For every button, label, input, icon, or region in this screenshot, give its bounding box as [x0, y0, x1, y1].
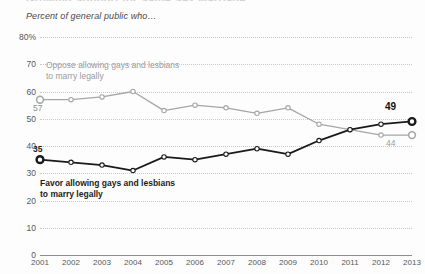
data-point — [317, 122, 321, 126]
data-point — [286, 106, 290, 110]
x-tick-2003: 2003 — [93, 258, 111, 267]
x-tick-2007: 2007 — [217, 258, 235, 267]
value-label-favor-end: 49 — [385, 101, 396, 112]
annotation-oppose-line1: Oppose allowing gays and lesbians — [46, 60, 179, 70]
x-tick-2009: 2009 — [279, 258, 297, 267]
data-point — [131, 168, 135, 172]
series-line — [40, 121, 412, 170]
y-tick-50: 50 — [27, 114, 36, 124]
data-point — [379, 122, 383, 126]
annotation-favor-line2: to marry legally — [40, 189, 103, 199]
data-point — [100, 95, 104, 99]
chart-canvas: Growing Support for Same-Sex Marriage Pe… — [0, 0, 425, 274]
x-tick-2011: 2011 — [341, 258, 358, 267]
data-point — [37, 156, 44, 163]
y-tick-80: 80% — [19, 32, 36, 42]
x-tick-2006: 2006 — [186, 258, 204, 267]
y-axis-labels: 01020304050607080% — [0, 37, 36, 255]
x-tick-2012: 2012 — [372, 258, 390, 267]
data-point — [409, 132, 416, 139]
data-point — [286, 152, 290, 156]
value-label-oppose-end: 44 — [386, 138, 395, 148]
data-point — [69, 97, 73, 101]
data-point — [131, 89, 135, 93]
y-tick-70: 70 — [27, 59, 36, 69]
x-tick-2004: 2004 — [124, 258, 142, 267]
x-tick-2013: 2013 — [403, 258, 421, 267]
x-tick-2002: 2002 — [62, 258, 80, 267]
series-oppose — [37, 89, 416, 138]
data-point — [162, 108, 166, 112]
x-tick-2008: 2008 — [248, 258, 266, 267]
y-tick-30: 30 — [27, 168, 36, 178]
x-tick-2010: 2010 — [310, 258, 328, 267]
annotation-oppose-line2: to marry legally — [46, 71, 104, 81]
y-tick-60: 60 — [27, 87, 36, 97]
data-point — [379, 133, 383, 137]
data-point — [255, 111, 259, 115]
value-label-favor-start: 35 — [33, 144, 42, 154]
annotation-oppose: Oppose allowing gays and lesbians to mar… — [46, 60, 179, 82]
data-point — [193, 157, 197, 161]
x-tick-2001: 2001 — [31, 258, 49, 267]
chart-title-clipped: Growing Support for Same-Sex Marriage — [26, 0, 246, 1]
annotation-favor: Favor allowing gays and lesbians to marr… — [40, 178, 175, 200]
series-favor — [37, 118, 416, 173]
data-point — [255, 147, 259, 151]
gridline-0 — [40, 255, 412, 256]
data-point — [317, 138, 321, 142]
annotation-favor-line1: Favor allowing gays and lesbians — [40, 178, 175, 188]
data-point — [348, 127, 352, 131]
chart-subtitle: Percent of general public who… — [26, 11, 157, 21]
data-point — [100, 163, 104, 167]
data-point — [409, 118, 416, 125]
data-point — [69, 160, 73, 164]
data-point — [193, 103, 197, 107]
y-tick-10: 10 — [27, 223, 36, 233]
y-tick-20: 20 — [27, 196, 36, 206]
data-point — [162, 155, 166, 159]
x-tick-2005: 2005 — [155, 258, 173, 267]
value-label-oppose-start: 57 — [33, 103, 42, 113]
x-axis-labels: 2001200220032004200520062007200820092010… — [40, 258, 412, 272]
data-point — [224, 152, 228, 156]
data-point — [224, 106, 228, 110]
